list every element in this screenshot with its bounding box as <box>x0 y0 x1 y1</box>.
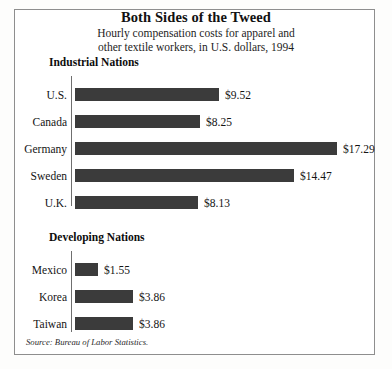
bar-row: Canada$8.25 <box>0 115 392 129</box>
bar-value-label: $3.86 <box>139 317 165 331</box>
bar-row: U.S.$9.52 <box>0 88 392 102</box>
bar <box>75 115 200 128</box>
group-heading-developing: Developing Nations <box>49 231 145 243</box>
bar-category-label: Sweden <box>0 169 67 183</box>
bar-value-label: $14.47 <box>300 169 332 183</box>
bar-category-label: Canada <box>0 115 67 129</box>
bar-category-label: Taiwan <box>0 317 67 331</box>
bar-row: Mexico$1.55 <box>0 263 392 277</box>
bar <box>75 263 98 276</box>
bar <box>75 169 294 182</box>
chart-subtitle: Hourly compensation costs for apparel an… <box>30 27 362 54</box>
bar-category-label: U.S. <box>0 88 67 102</box>
bar-value-label: $17.29 <box>343 142 375 156</box>
bar-row: U.K.$8.13 <box>0 196 392 210</box>
chart-figure: Both Sides of the Tweed Hourly compensat… <box>0 0 392 369</box>
bar-category-label: Mexico <box>0 263 67 277</box>
chart-subtitle-line-1: Hourly compensation costs for apparel an… <box>30 27 362 41</box>
bar-value-label: $9.52 <box>225 88 251 102</box>
bar <box>75 317 133 330</box>
bar <box>75 290 133 303</box>
bar-row: Sweden$14.47 <box>0 169 392 183</box>
bar-value-label: $3.86 <box>139 290 165 304</box>
group-heading-industrial: Industrial Nations <box>49 56 139 68</box>
bar-row: Taiwan$3.86 <box>0 317 392 331</box>
bar-row: Korea$3.86 <box>0 290 392 304</box>
chart-source: Source: Bureau of Labor Statistics. <box>26 337 148 347</box>
bar-value-label: $1.55 <box>104 263 130 277</box>
chart-subtitle-line-2: other textile workers, in U.S. dollars, … <box>30 41 362 55</box>
bar <box>75 88 219 101</box>
bar-value-label: $8.25 <box>206 115 232 129</box>
bar-value-label: $8.13 <box>204 196 230 210</box>
bar <box>75 196 198 209</box>
chart-title: Both Sides of the Tweed <box>0 9 392 26</box>
bar-category-label: Korea <box>0 290 67 304</box>
bar-category-label: U.K. <box>0 196 67 210</box>
bar-category-label: Germany <box>0 142 67 156</box>
bar-row: Germany$17.29 <box>0 142 392 156</box>
bar <box>75 142 337 155</box>
